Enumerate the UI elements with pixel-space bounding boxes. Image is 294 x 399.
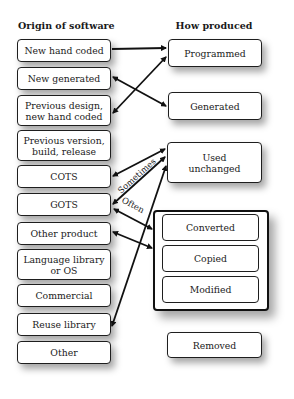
origin-label: COTS [50,171,77,182]
production-modified: Modified [162,276,259,303]
origin-commercial: Commercial [17,284,111,307]
origin-label: Previous version, build, release [21,135,107,157]
production-programmed: Programmed [168,39,262,67]
production-label: Copied [194,253,227,264]
origin-language-library: Language library or OS [17,249,111,280]
production-label: Converted [186,222,235,233]
origin-other: Other [17,341,111,364]
origin-label: New generated [28,73,101,84]
origin-label: Previous design, new hand coded [21,100,107,122]
production-label: Modified [190,284,232,295]
edge-label-often: Often [120,195,146,215]
origin-label: Reuse library [32,319,95,330]
edge-cots-used-unchanged [113,149,165,176]
production-label: Generated [190,101,240,112]
production-removed: Removed [167,332,262,358]
edge-new-generated-generated [113,77,166,106]
origin-label: Commercial [36,290,93,301]
origin-label: Language library or OS [21,254,107,276]
production-label: Programmed [184,48,245,59]
origin-label: GOTS [50,199,78,210]
origin-label: New hand coded [24,45,103,56]
origin-new-generated: New generated [17,67,111,90]
origin-header: Origin of software [18,20,114,31]
origin-other-product: Other product [17,222,111,245]
production-label: Removed [193,340,237,351]
edge-new-hand-coded-programmed [112,48,166,49]
origin-label: Other [50,347,77,358]
edge-gots-used-unchanged [113,157,165,204]
edge-other-product-group [113,232,152,248]
edge-label-sometimes: Sometimes [116,156,158,195]
origin-gots: GOTS [17,193,111,216]
origin-previous-design: Previous design, new hand coded [17,95,111,126]
edge-gots-group [114,209,152,229]
production-header: How produced [166,20,262,31]
production-used-unchanged: Used unchanged [167,142,262,183]
origin-label: Other product [30,228,97,239]
production-converted: Converted [162,214,259,241]
production-label: Used unchanged [185,152,245,174]
production-copied: Copied [162,245,259,272]
production-generated: Generated [168,92,262,120]
origin-cots: COTS [17,165,111,188]
origin-previous-version: Previous version, build, release [17,130,111,161]
edge-previous-design-programmed [113,57,166,113]
origin-new-hand-coded: New hand coded [17,39,111,62]
origin-reuse-library: Reuse library [17,313,111,336]
